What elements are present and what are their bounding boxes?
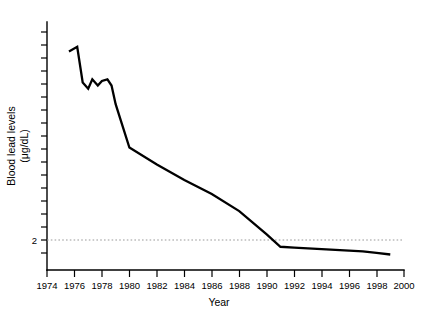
x-tick-label: 1994 [311,280,332,291]
y-axis-ticks [41,32,47,253]
x-axis-ticks [47,270,404,277]
x-tick-label: 1982 [146,280,167,291]
x-tick-label: 1974 [36,280,57,291]
y-axis-title-line2: (μg/dL) [18,129,30,162]
x-tick-label: 1978 [91,280,112,291]
chart-figure: 2 1974 1976 1978 1980 1982 1 [0,0,421,315]
x-tick-label: 1990 [256,280,277,291]
x-axis-title: Year [208,296,230,308]
x-tick-label: 1980 [119,280,140,291]
x-tick-label: 1988 [229,280,250,291]
x-tick-label: 1996 [339,280,360,291]
x-axis-tick-labels: 1974 1976 1978 1980 1982 1984 1986 1988 … [36,280,414,291]
data-series-line [69,47,390,255]
line-chart: 2 1974 1976 1978 1980 1982 1 [0,0,421,315]
x-tick-label: 1998 [366,280,387,291]
x-tick-label: 1992 [284,280,305,291]
y-axis-title-line1: Blood lead levels [5,106,17,185]
y-tick-label-2: 2 [32,235,37,246]
x-tick-label: 2000 [393,280,414,291]
x-tick-label: 1976 [64,280,85,291]
x-tick-label: 1986 [201,280,222,291]
x-tick-label: 1984 [174,280,195,291]
